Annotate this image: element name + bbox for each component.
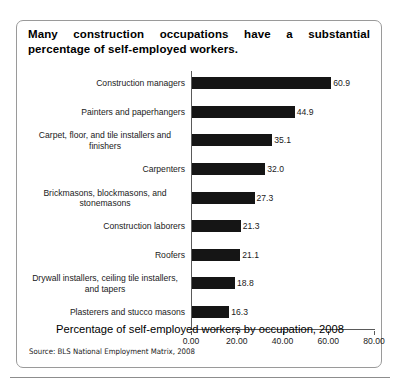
bar-value-label: 44.9 [295,107,314,117]
chart-row: Carpet, floor, and tile installers and f… [17,126,383,155]
plot-wrapper: Construction managers 60.9 Painters and … [17,69,383,335]
bar-value-label: 27.3 [255,193,274,203]
bar [192,220,241,232]
chart-row: Painters and paperhangers 44.9 [17,98,383,127]
category-label: Construction managers [25,78,185,89]
x-tick-label: 80.00 [363,336,385,346]
x-tick-label: 20.00 [226,336,248,346]
x-tick-label: 60.00 [317,336,339,346]
bar [192,77,331,89]
bar-track: 44.9 [192,106,375,118]
bar-track: 21.3 [192,220,375,232]
figure-card: Many construction occupations have a sub… [16,20,382,368]
chart-row: Construction laborers 21.3 [17,212,383,241]
chart-row: Carpenters 32.0 [17,155,383,184]
bar-track: 35.1 [192,134,375,146]
bar-track: 21.1 [192,249,375,261]
bar [192,163,265,175]
chart-row: Roofers 21.1 [17,241,383,270]
bar-value-label: 18.8 [235,278,254,288]
bottom-divider [10,377,390,378]
bar [192,192,255,204]
category-label: Drywall installers, ceiling tile install… [25,273,185,294]
bar-track: 27.3 [192,192,375,204]
category-label: Plasterers and stucco masons [25,307,185,318]
chart-row: Drywall installers, ceiling tile install… [17,269,383,298]
bar-value-label: 32.0 [265,164,284,174]
category-label: Roofers [25,250,185,261]
chart-row: Construction managers 60.9 [17,69,383,98]
bar [192,106,295,118]
bar-value-label: 21.1 [240,250,259,260]
bar [192,249,240,261]
chart-title: Many construction occupations have a sub… [28,27,370,57]
bar-track: 16.3 [192,306,375,318]
bar [192,134,272,146]
source-note: Source: BLS National Employment Matrix, … [29,347,195,356]
bar-value-label: 60.9 [331,78,350,88]
category-label: Carpenters [25,164,185,175]
bar-track: 18.8 [192,277,375,289]
x-tick-label: 0.00 [183,336,200,346]
bar [192,277,235,289]
category-label: Carpet, floor, and tile installers and f… [25,130,185,151]
bar-value-label: 35.1 [272,135,291,145]
category-label: Brickmasons, blockmasons, and stonemason… [25,187,185,208]
category-label: Painters and paperhangers [25,107,185,118]
bar [192,306,229,318]
bar-track: 60.9 [192,77,375,89]
category-label: Construction laborers [25,221,185,232]
x-tick-label: 40.00 [272,336,294,346]
bar-track: 32.0 [192,163,375,175]
bar-value-label: 16.3 [229,307,248,317]
chart-row: Brickmasons, blockmasons, and stonemason… [17,183,383,212]
bar-value-label: 21.3 [241,221,260,231]
x-axis-title: Percentage of self-employed workers by o… [17,323,383,335]
